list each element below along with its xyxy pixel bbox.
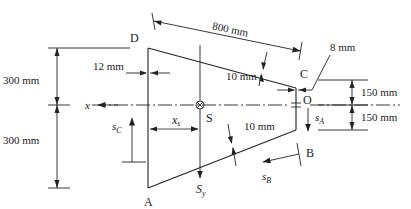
dimension-150-top: 150 mm	[361, 86, 398, 98]
label-S: S	[206, 111, 213, 125]
sy-label: Sy	[196, 182, 206, 198]
flange-AB	[148, 130, 296, 188]
section-outline	[148, 48, 296, 188]
sA-label: sA	[315, 111, 324, 126]
dimension-300-bottom: 300 mm	[3, 134, 40, 146]
dimension-800	[152, 13, 302, 60]
sB-arrow	[263, 154, 299, 162]
label-O: O	[303, 93, 312, 107]
sB-label: sB	[262, 170, 271, 185]
dimension-10-bottom-label: 10 mm	[244, 120, 275, 132]
x-axis-label: x	[84, 99, 90, 111]
xs-label: xs	[171, 113, 180, 128]
sC-label: sC	[112, 120, 122, 135]
label-B: B	[306, 146, 314, 160]
dimension-300-top: 300 mm	[3, 74, 40, 86]
dimension-8-label: 8 mm	[330, 41, 356, 53]
dimension-12-label: 12 mm	[93, 60, 124, 72]
dimension-150-bottom: 150 mm	[361, 111, 398, 123]
label-A: A	[144, 195, 153, 209]
label-C: C	[300, 67, 308, 81]
dimension-10-bottom	[228, 124, 236, 166]
flange-DC	[148, 48, 296, 88]
section-diagram: x S Sy xs D C O B A sA sB sC 800 mm	[0, 0, 411, 209]
dimension-10-top-label: 10 mm	[226, 70, 257, 82]
dimension-800-label: 800 mm	[211, 20, 249, 39]
label-D: D	[130, 31, 139, 45]
